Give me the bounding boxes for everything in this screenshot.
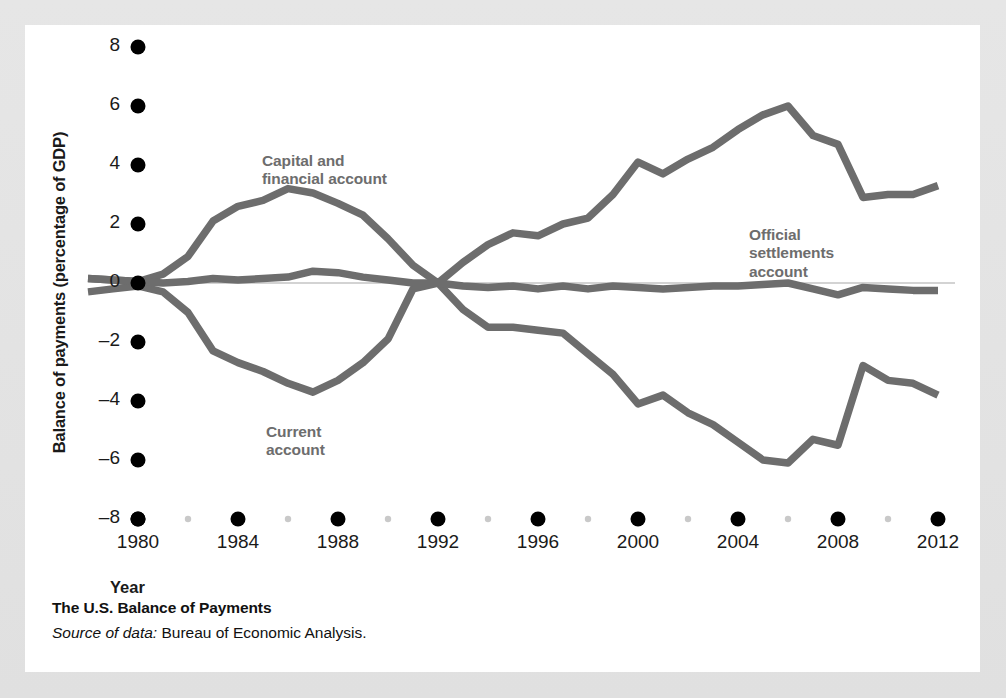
y-tick-dot xyxy=(131,99,146,114)
y-tick-dot xyxy=(131,394,146,409)
series-line-current-account xyxy=(88,283,938,463)
x-tick-dot-major xyxy=(531,512,546,527)
x-tick-label: 1988 xyxy=(303,531,373,553)
x-tick-dot-major xyxy=(631,512,646,527)
x-tick-label: 1980 xyxy=(103,531,173,553)
x-tick-label: 1992 xyxy=(403,531,473,553)
x-tick-dot-minor xyxy=(785,516,791,522)
y-axis-title: Balance of payments (percentage of GDP) xyxy=(50,43,69,543)
y-tick-label: 8 xyxy=(80,34,120,56)
x-tick-label: 1996 xyxy=(503,531,573,553)
x-tick-dot-major xyxy=(831,512,846,527)
y-tick-dot xyxy=(131,276,146,291)
figure-page: Balance of payments (percentage of GDP) … xyxy=(0,0,1006,698)
x-tick-dot-minor xyxy=(185,516,191,522)
x-tick-dot-major xyxy=(431,512,446,527)
x-tick-dot-minor xyxy=(585,516,591,522)
y-tick-label: –2 xyxy=(80,329,120,351)
series-label-official-settlements-account: Official settlements account xyxy=(749,226,834,281)
y-tick-label: –8 xyxy=(80,506,120,528)
x-tick-dot-minor xyxy=(685,516,691,522)
x-tick-dot-major xyxy=(331,512,346,527)
caption-title: The U.S. Balance of Payments xyxy=(52,599,952,617)
figure-caption: The U.S. Balance of Payments Source of d… xyxy=(52,599,952,642)
x-tick-label: 2004 xyxy=(703,531,773,553)
series-label-capital-and-financial-account: Capital and financial account xyxy=(262,152,387,189)
x-tick-dot-minor xyxy=(485,516,491,522)
y-tick-dot xyxy=(131,217,146,232)
chart-plot-area: Balance of payments (percentage of GDP) … xyxy=(25,25,980,585)
x-tick-label: 2012 xyxy=(903,531,973,553)
x-tick-dot-minor xyxy=(885,516,891,522)
series-paths-group xyxy=(88,106,938,463)
caption-source: Source of data: Bureau of Economic Analy… xyxy=(52,624,952,642)
y-tick-dot xyxy=(131,512,146,527)
caption-source-prefix: Source of data: xyxy=(52,624,157,641)
x-tick-dot-minor xyxy=(385,516,391,522)
x-tick-label: 1984 xyxy=(203,531,273,553)
x-tick-dot-major xyxy=(731,512,746,527)
balance-of-payments-line-chart xyxy=(25,25,980,585)
x-tick-dot-major xyxy=(931,512,946,527)
x-tick-label: 2000 xyxy=(603,531,673,553)
y-tick-label: 2 xyxy=(80,211,120,233)
y-tick-dot xyxy=(131,453,146,468)
y-tick-dot xyxy=(131,40,146,55)
y-tick-dot xyxy=(131,335,146,350)
y-tick-label: 4 xyxy=(80,152,120,174)
y-tick-label: –4 xyxy=(80,388,120,410)
caption-source-text: Bureau of Economic Analysis. xyxy=(157,624,366,641)
y-axis-tick-marks xyxy=(131,40,146,527)
y-tick-label: –6 xyxy=(80,447,120,469)
x-axis-title: Year xyxy=(110,578,145,597)
x-tick-label: 2008 xyxy=(803,531,873,553)
series-label-current-account: Current account xyxy=(266,423,325,460)
y-tick-dot xyxy=(131,158,146,173)
x-axis-tick-marks xyxy=(131,512,946,527)
figure-card: Balance of payments (percentage of GDP) … xyxy=(25,25,980,672)
x-tick-dot-major xyxy=(231,512,246,527)
y-tick-label: 0 xyxy=(80,270,120,292)
x-tick-dot-minor xyxy=(285,516,291,522)
y-tick-label: 6 xyxy=(80,93,120,115)
